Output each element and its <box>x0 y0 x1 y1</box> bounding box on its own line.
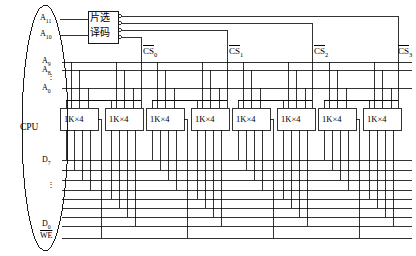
diagram-canvas <box>0 0 416 256</box>
pin-a0-sub: 0 <box>48 88 51 94</box>
cs0-index: 0 <box>154 51 157 58</box>
cs0-base: CS <box>143 46 154 56</box>
pin-d0-sub: 0 <box>48 224 51 230</box>
cs0-label: CS0 <box>143 47 157 58</box>
we-drop-g3 <box>356 119 359 238</box>
pin-a0: A0 <box>42 84 51 94</box>
pin-a10: A10 <box>40 30 52 40</box>
chip-label-6: 1K×4 <box>281 115 300 124</box>
chip-label-5: 1K×4 <box>236 115 255 124</box>
cs2-label: CS2 <box>314 47 328 58</box>
decoder-out-3 <box>118 35 121 38</box>
chip-label-7: 1K×4 <box>322 115 341 124</box>
pin-d0: D0 <box>42 220 51 230</box>
cs1-index: 1 <box>240 51 243 58</box>
pin-d7-sub: 7 <box>48 160 51 166</box>
we-drop-g0 <box>98 119 101 238</box>
chip-label-2: 1K×4 <box>109 115 128 124</box>
cs0-route <box>122 37 141 55</box>
pin-a11: A11 <box>40 14 51 24</box>
chip-label-8: 1K×4 <box>367 115 386 124</box>
pin-data-dots: ⋮ <box>47 182 55 189</box>
cs3-index: 3 <box>409 51 412 58</box>
cs1-route <box>122 30 227 55</box>
memory-expansion-diagram: CPU A11 A10 A9 A8 ⋮ A0 D7 ⋮ D0 WE 片选 译码 … <box>0 0 416 256</box>
pin-addr-dots: ⋮ <box>47 74 55 81</box>
pin-a10-sub: 10 <box>46 34 52 40</box>
decoder-out-1 <box>118 21 121 24</box>
cs2-base: CS <box>314 46 325 56</box>
decoder-out-0 <box>118 14 121 17</box>
cs3-base: CS <box>398 46 409 56</box>
we-drop-g2 <box>270 119 273 238</box>
chip-label-4: 1K×4 <box>195 115 214 124</box>
decoder-line2: 译码 <box>90 28 110 38</box>
pin-d7: D7 <box>42 156 51 166</box>
chip-label-3: 1K×4 <box>150 115 169 124</box>
decoder-line1: 片选 <box>90 13 110 23</box>
decoder-out-2 <box>118 28 121 31</box>
chip-label-1: 1K×4 <box>64 115 83 124</box>
cs3-route <box>122 16 398 55</box>
cs2-index: 2 <box>325 51 328 58</box>
pin-we: WE <box>40 232 52 240</box>
cpu-label: CPU <box>20 123 38 133</box>
cs1-base: CS <box>229 46 240 56</box>
pin-a11-sub: 11 <box>46 18 52 24</box>
we-drop-g1 <box>184 119 187 238</box>
cs3-label: CS3 <box>398 47 412 58</box>
cs1-label: CS1 <box>229 47 243 58</box>
